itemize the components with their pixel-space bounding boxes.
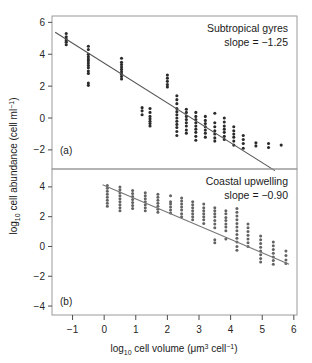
y-axis: log10 cell abundance (cell ml−1) [8,98,21,235]
data-point [156,199,159,202]
data-point [232,129,235,132]
data-point [213,112,216,115]
panel-a-annotation-slope: slope = −1.25 [224,36,288,48]
data-point [185,124,188,127]
data-point [247,223,250,226]
data-point [87,84,90,87]
data-point [106,205,109,208]
data-point [259,261,262,264]
panel-a-annotation-title: Subtropical gyres [207,22,288,34]
data-point [194,135,197,138]
data-point [259,257,262,260]
data-point [156,202,159,205]
data-point [254,144,257,147]
data-point [120,77,123,80]
data-point [175,110,178,113]
data-point [204,119,207,122]
data-point [232,125,235,128]
data-point [175,123,178,126]
data-point [284,249,287,252]
data-point [118,197,121,200]
data-point [156,196,159,199]
data-point [118,209,121,212]
data-point [284,258,287,261]
data-point [156,193,159,196]
data-point [144,191,147,194]
data-point [224,226,227,229]
data-point [272,241,275,244]
data-point [224,223,227,226]
data-point [223,128,226,131]
data-point [232,132,235,135]
data-point [213,206,216,209]
data-point [235,249,238,252]
data-point [87,45,90,48]
data-point [224,209,227,212]
data-point [118,194,121,197]
data-point [247,230,250,233]
data-point [284,254,287,257]
data-point [106,190,109,193]
data-point [259,235,262,238]
data-point [106,193,109,196]
data-point [169,205,172,208]
data-point [272,259,275,262]
data-point [118,206,121,209]
data-point [235,233,238,236]
data-point [144,197,147,200]
data-point [213,226,216,229]
y-tick-label: 4 [39,181,45,192]
data-point [185,118,188,121]
data-point [87,72,90,75]
data-point [166,80,169,83]
data-point [106,196,109,199]
data-point [235,229,238,232]
data-point [224,212,227,215]
data-point [224,219,227,222]
x-tick-label: 0 [101,324,107,335]
data-point [191,215,194,218]
data-point [141,109,144,112]
data-point [191,209,194,212]
data-point [223,135,226,138]
data-point [202,203,205,206]
data-point [194,115,197,118]
data-point [235,218,238,221]
data-point [148,111,151,114]
y-tick-label: 6 [39,17,45,28]
data-point [267,142,270,145]
data-point [166,73,169,76]
data-point [213,212,216,215]
x-tick-label: 3 [196,324,202,335]
data-point [144,209,147,212]
data-point [213,209,216,212]
data-point [213,136,216,139]
data-point [87,48,90,51]
data-point [213,140,216,143]
data-point [175,113,178,116]
data-point [120,57,123,60]
data-point [87,66,90,69]
data-point [131,207,134,210]
data-point [267,146,270,149]
figure-container: −20246 (a) Subtropical gyres slope = −1.… [0,0,312,363]
data-point [272,252,275,255]
data-point [223,131,226,134]
data-point [185,108,188,111]
data-point [213,238,216,241]
data-point [169,194,172,197]
data-point [175,102,178,105]
data-point [259,246,262,249]
data-point [148,124,151,127]
data-point [191,200,194,203]
data-point [65,32,68,35]
data-point [118,188,121,191]
x-tick-label: 2 [165,324,171,335]
panel-b-annotation-title: Coastal upwelling [206,175,288,187]
y-tick-label: −2 [34,144,46,155]
data-point [141,113,144,116]
data-point [194,111,197,114]
data-point [235,214,238,217]
data-point [175,94,178,97]
data-point [180,203,183,206]
